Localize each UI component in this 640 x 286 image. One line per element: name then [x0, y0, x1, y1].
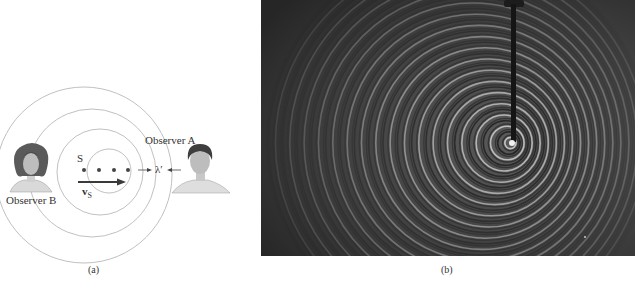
wavefront-3 — [57, 129, 143, 215]
ripple-tank-photo — [261, 0, 635, 256]
wavelength-arrow-left — [138, 168, 152, 172]
panel-a-caption: (a) — [88, 264, 99, 275]
observer-a-figure — [172, 144, 230, 193]
observer-b-label: Observer B — [6, 194, 56, 206]
wavefront-2 — [28, 109, 156, 237]
panel-b-caption: (b) — [441, 264, 453, 275]
wavelength-arrow-right — [167, 168, 181, 172]
wavelength-label: λ′ — [155, 163, 163, 175]
source-positions — [82, 168, 130, 172]
observer-b-figure — [10, 143, 52, 192]
source-dot-1 — [82, 168, 86, 172]
observer-a-label: Observer A — [145, 134, 195, 146]
source-dot-3 — [112, 168, 116, 172]
speck — [584, 236, 586, 238]
velocity-label: vS — [82, 185, 92, 200]
source-dot-4 — [126, 168, 130, 172]
wavefront-4 — [87, 149, 131, 193]
source-highlight — [509, 140, 515, 146]
doppler-diagram — [0, 0, 260, 286]
source-label: S — [77, 152, 83, 164]
vibrator-rod — [511, 4, 516, 142]
source-dot-2 — [97, 168, 101, 172]
velocity-subscript: S — [88, 191, 92, 200]
